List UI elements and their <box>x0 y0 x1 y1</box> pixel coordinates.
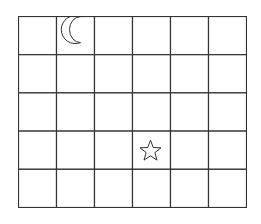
grid-cell-r0-c4 <box>171 17 209 55</box>
grid-cell-r1-c0 <box>19 55 57 93</box>
grid-cell-r4-c2 <box>95 169 133 207</box>
grid-cell-r3-c4 <box>171 131 209 169</box>
grid-cell-r1-c5 <box>209 55 247 93</box>
grid-cell-r1-c2 <box>95 55 133 93</box>
grid-cell-r2-c5 <box>209 93 247 131</box>
grid-cell-r0-c3 <box>133 17 171 55</box>
grid-cell-r4-c3 <box>133 169 171 207</box>
grid-cell-r0-c2 <box>95 17 133 55</box>
grid-cell-r0-c0 <box>19 17 57 55</box>
grid-cell-r3-c1 <box>57 131 95 169</box>
grid-cell-r1-c4 <box>171 55 209 93</box>
grid-cell-r2-c3 <box>133 93 171 131</box>
grid-cell-r3-c0 <box>19 131 57 169</box>
grid-cell-r3-c5 <box>209 131 247 169</box>
grid-cell-r3-c3 <box>133 131 171 169</box>
grid-cell-r2-c0 <box>19 93 57 131</box>
grid-cell-r2-c2 <box>95 93 133 131</box>
grid-cell-r4-c0 <box>19 169 57 207</box>
grid-board <box>18 16 247 208</box>
grid-cell-r1-c3 <box>133 55 171 93</box>
grid-cell-r2-c1 <box>57 93 95 131</box>
grid-cell-r4-c4 <box>171 169 209 207</box>
grid-cell-r1-c1 <box>57 55 95 93</box>
grid-cell-r3-c2 <box>95 131 133 169</box>
grid-cell-r4-c1 <box>57 169 95 207</box>
grid-cell-r2-c4 <box>171 93 209 131</box>
grid-cell-r4-c5 <box>209 169 247 207</box>
grid-cell-r0-c5 <box>209 17 247 55</box>
